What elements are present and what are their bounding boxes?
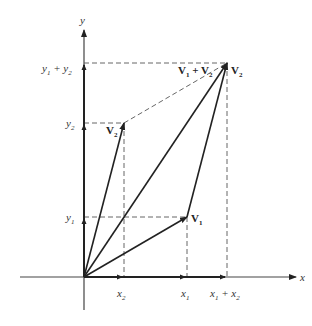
- x1-tick-label: x1: [180, 287, 189, 302]
- y1-tick-label: y1: [65, 211, 74, 226]
- x-axis-label: x: [299, 271, 305, 283]
- y-axis-label: y: [79, 14, 85, 26]
- v2-label: V2: [106, 124, 118, 139]
- y2-tick-label: y2: [65, 117, 75, 132]
- y1-plus-y2-tick-label: y1 + y2: [41, 62, 72, 77]
- v1-label: V1: [191, 212, 203, 227]
- vector-v2-translated: [187, 63, 227, 217]
- x1-plus-x2-tick-label: x1 + x2: [209, 287, 240, 302]
- vectors: [84, 63, 227, 277]
- v2-translated-label: V2: [231, 64, 243, 79]
- vector-v1: [84, 217, 187, 277]
- v1-plus-v2-label: V1 + V2: [178, 64, 213, 79]
- vector-v2: [84, 123, 124, 277]
- vector-addition-diagram: y x x2 x1 x1 + x2 y1 y2 y1 + y2 V1 V2 V1…: [0, 0, 312, 326]
- vector-sum: [84, 63, 227, 277]
- x2-tick-label: x2: [116, 287, 126, 302]
